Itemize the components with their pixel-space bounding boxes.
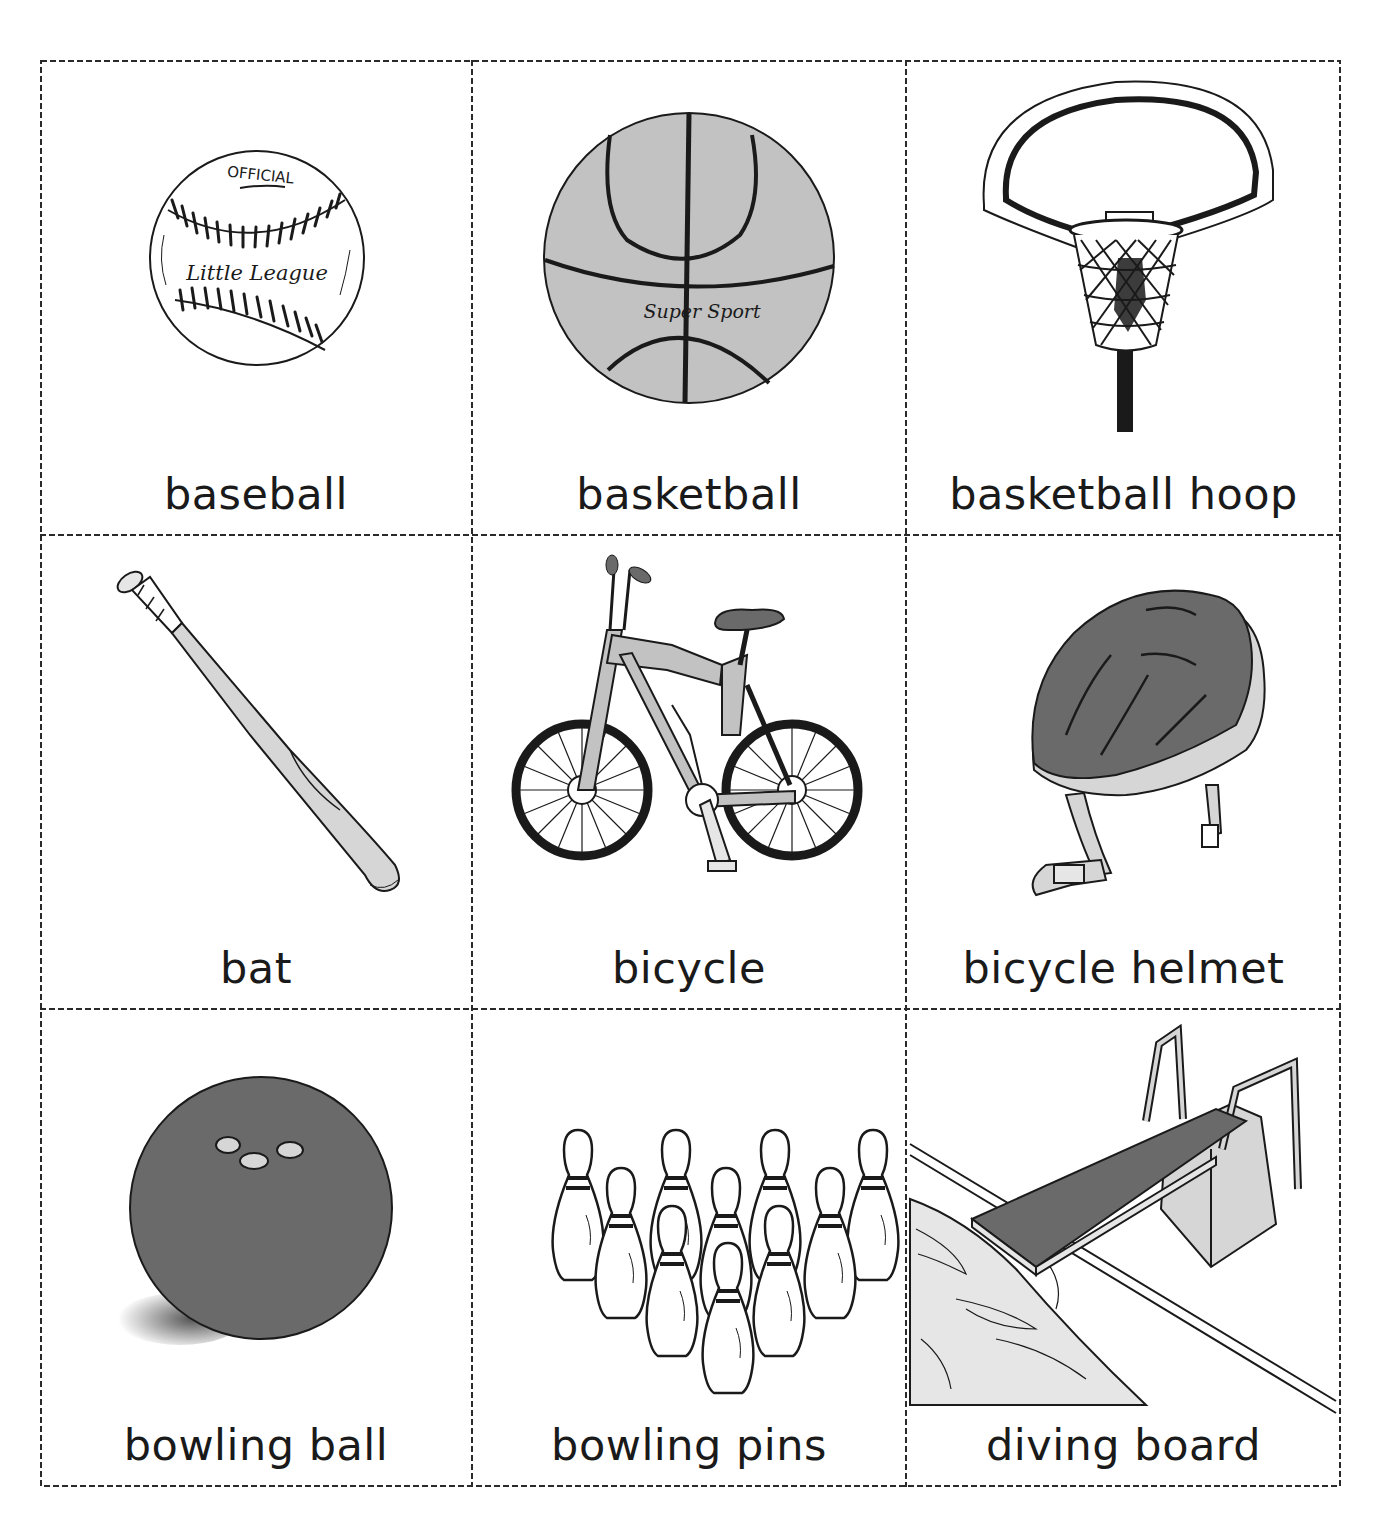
card-label: basketball — [472, 473, 906, 516]
card-diving-board: diving board — [906, 1009, 1341, 1487]
flashcard-sheet: OFFICIAL Little League baseball — [40, 60, 1341, 1487]
card-label: bowling ball — [40, 1424, 472, 1467]
diving-board-icon — [906, 1009, 1341, 1487]
bicycle-icon — [472, 535, 906, 1009]
card-label: bat — [40, 947, 472, 990]
basketball-icon: Super Sport — [472, 60, 906, 535]
baseball-bat-icon — [40, 535, 472, 1009]
bowling-pins-icon — [472, 1009, 906, 1487]
card-label: basketball hoop — [906, 473, 1341, 516]
bicycle-helmet-icon — [906, 535, 1341, 1009]
svg-text:Super Sport: Super Sport — [643, 300, 760, 322]
card-bowling-ball: bowling ball — [40, 1009, 472, 1487]
card-basketball-hoop: basketball hoop — [906, 60, 1341, 535]
card-label: bicycle — [472, 947, 906, 990]
card-label: baseball — [40, 473, 472, 516]
bowling-ball-icon — [40, 1009, 472, 1487]
card-label: bowling pins — [472, 1424, 906, 1467]
baseball-icon: OFFICIAL Little League — [40, 60, 472, 535]
card-bat: bat — [40, 535, 472, 1009]
card-bicycle: bicycle — [472, 535, 906, 1009]
card-label: bicycle helmet — [906, 947, 1341, 990]
svg-text:Little League: Little League — [185, 261, 328, 285]
card-bicycle-helmet: bicycle helmet — [906, 535, 1341, 1009]
card-basketball: Super Sport basketball — [472, 60, 906, 535]
card-bowling-pins: bowling pins — [472, 1009, 906, 1487]
card-baseball: OFFICIAL Little League baseball — [40, 60, 472, 535]
basketball-hoop-icon — [906, 60, 1341, 535]
card-label: diving board — [906, 1424, 1341, 1467]
